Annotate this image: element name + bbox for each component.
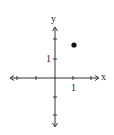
y-axis <box>53 27 58 127</box>
x-axis-label: x <box>101 72 106 82</box>
coordinate-plane <box>0 0 114 135</box>
y-tick-label-1: 1 <box>46 54 51 64</box>
x-tick-label-1: 1 <box>71 83 76 93</box>
y-axis-label: y <box>51 14 56 24</box>
data-point <box>71 42 76 47</box>
